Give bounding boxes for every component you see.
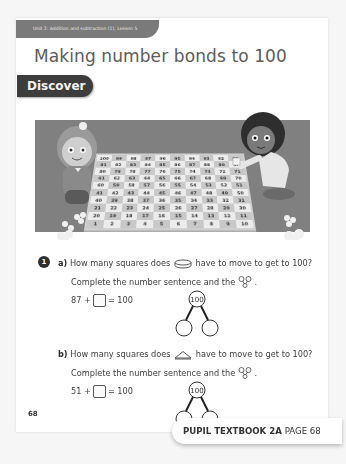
part-circle-a2 xyxy=(202,320,218,336)
part-circle-a1 xyxy=(176,320,192,336)
question-a-text: How many squares does xyxy=(70,258,170,268)
question-a-line2: Complete the number sentence and the . xyxy=(71,276,257,288)
page-title: Making number bonds to 100 xyxy=(34,46,287,66)
sentence-b-right: = 100 xyxy=(108,386,133,396)
pupil-textbook-tab: PUPIL TEXTBOOK 2A PAGE 68 xyxy=(172,418,342,444)
instruction-b-text: Complete the number sentence and the xyxy=(71,368,235,378)
girl-right-icon xyxy=(233,112,295,200)
part-whole-model-a: 100 xyxy=(172,290,222,340)
part-whole-model-icon xyxy=(238,276,252,288)
sentence-a-left: 87 + xyxy=(71,295,91,305)
girl-left-icon xyxy=(57,122,97,204)
page-label: PAGE 68 xyxy=(285,426,321,436)
page-number: 68 xyxy=(28,410,38,418)
board-game-illustration: 1009998979695949392918182838485868788899… xyxy=(35,120,310,232)
triangle-counter-icon xyxy=(173,350,193,360)
question-b-line2: Complete the number sentence and the . xyxy=(71,367,257,379)
question-b-text-end: have to move to get to 100? xyxy=(196,349,313,359)
part-a-label: a) xyxy=(58,258,67,268)
question-a-line1: a) How many squares does have to move to… xyxy=(58,258,312,269)
whole-value-a: 100 xyxy=(190,296,203,304)
period: . xyxy=(254,368,257,378)
sentence-a-right: = 100 xyxy=(108,295,133,305)
cylinder-counter-icon xyxy=(173,259,193,269)
number-sentence-b: 51 += 100 xyxy=(71,385,133,398)
part-whole-model-icon xyxy=(238,367,252,379)
period: . xyxy=(254,277,257,287)
number-sentence-a: 87 += 100 xyxy=(71,294,133,307)
instruction-a-text: Complete the number sentence and the xyxy=(71,277,235,287)
answer-box-b[interactable] xyxy=(93,385,106,398)
answer-box-a[interactable] xyxy=(93,294,106,307)
unit-lesson-strip: Unit 2: Addition and subtraction (1), Le… xyxy=(16,20,159,38)
question-number-badge: 1 xyxy=(38,256,50,268)
textbook-page: Unit 2: Addition and subtraction (1), Le… xyxy=(16,18,328,432)
part-b-label: b) xyxy=(58,349,68,359)
book-label: PUPIL TEXTBOOK 2A xyxy=(183,426,282,436)
question-b-text: How many squares does xyxy=(70,349,170,359)
whole-value-b: 100 xyxy=(190,387,203,395)
sentence-b-left: 51 + xyxy=(71,386,91,396)
question-b-line1: b) How many squares does have to move to… xyxy=(58,349,312,360)
flower-decor-icon xyxy=(57,212,304,240)
question-a-text-end: have to move to get to 100? xyxy=(195,258,312,268)
children-and-decor xyxy=(35,90,310,240)
